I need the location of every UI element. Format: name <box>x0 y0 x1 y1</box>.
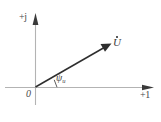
real-axis-label: +1 <box>140 90 150 100</box>
phasor-vector-arrowhead <box>101 44 112 52</box>
angle-label: ψu <box>56 73 65 85</box>
origin-label: 0 <box>26 89 31 99</box>
imaginary-axis-arrowhead <box>33 13 39 25</box>
angle-label-subscript: u <box>62 77 65 84</box>
phasor-label: U <box>113 37 121 48</box>
phasor-label-text: U <box>113 36 121 48</box>
imaginary-axis-label: +j <box>19 12 27 22</box>
phasor-diagram: +j +1 0 U ψu <box>0 0 161 122</box>
phasor-accent-dot-icon <box>116 36 118 38</box>
phasor-vector-line <box>36 47 107 88</box>
